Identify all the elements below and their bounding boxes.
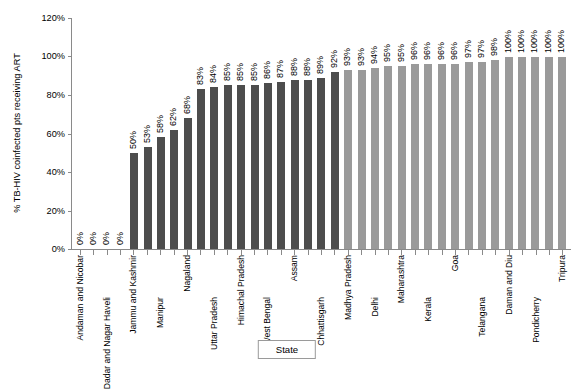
x-axis-label-text: Assam xyxy=(289,255,299,281)
y-axis-tick-mark xyxy=(68,18,72,19)
bar-value-label: 100% xyxy=(503,29,513,52)
bar-value-label: 53% xyxy=(142,125,152,143)
bar[interactable]: 96% xyxy=(411,64,419,249)
bar-value-label: 94% xyxy=(369,46,379,64)
bar[interactable]: 85% xyxy=(224,85,232,249)
bar[interactable]: 100% xyxy=(505,57,513,250)
bar[interactable]: 88% xyxy=(291,80,299,249)
bar-series: 0%0%0%0%50%53%58%62%68%83%84%85%85%85%86… xyxy=(72,18,571,249)
bar-slot: 93% xyxy=(355,18,368,249)
bar-value-label: 95% xyxy=(382,44,392,62)
bar-slot: 93% xyxy=(342,18,355,249)
bar-slot: 96% xyxy=(435,18,448,249)
bar-slot: 0% xyxy=(101,18,114,249)
x-axis-label-tripura: Tripura xyxy=(556,255,569,373)
bar[interactable]: 86% xyxy=(264,83,272,249)
bar-slot: 88% xyxy=(301,18,314,249)
bar-value-label: 100% xyxy=(516,29,526,52)
bar-slot: 62% xyxy=(168,18,181,249)
bar-slot: 95% xyxy=(382,18,395,249)
bar-slot: 0% xyxy=(114,18,127,249)
x-axis-label-chhattisgarh: Chhattisgarh xyxy=(314,255,327,373)
bar[interactable]: 100% xyxy=(558,57,566,250)
bar-value-label: 83% xyxy=(195,67,205,85)
x-axis-label-telangana: Telangana xyxy=(475,255,488,373)
bar[interactable]: 95% xyxy=(384,66,392,249)
x-axis-label-text: Andaman and Nicobar xyxy=(75,255,85,341)
x-axis-label-text: Delhi xyxy=(370,297,380,317)
bar[interactable]: 89% xyxy=(317,78,325,249)
x-axis-label-uttar-pradesh: Uttar Pradesh xyxy=(207,255,220,373)
bar[interactable]: 100% xyxy=(545,57,553,250)
bar-value-label: 85% xyxy=(222,63,232,81)
x-axis-label-blank xyxy=(113,255,126,373)
bar-slot: 84% xyxy=(208,18,221,249)
x-axis-label-text: Kerala xyxy=(423,297,433,322)
x-axis-label-blank xyxy=(462,255,475,373)
bar-value-label: 96% xyxy=(449,42,459,60)
bar-slot: 98% xyxy=(489,18,502,249)
y-axis-tick-label: 120% xyxy=(13,13,72,23)
bar[interactable]: 85% xyxy=(251,85,259,249)
bar[interactable]: 98% xyxy=(491,60,499,249)
x-axis-label-blank xyxy=(194,255,207,373)
x-axis-label-blank xyxy=(381,255,394,373)
bar[interactable]: 83% xyxy=(197,89,205,249)
x-axis-label-manipur: Manipur xyxy=(153,255,166,373)
x-axis-title: State xyxy=(258,340,316,359)
bar-slot: 92% xyxy=(328,18,341,249)
bar-slot: 89% xyxy=(315,18,328,249)
bar[interactable]: 92% xyxy=(331,72,339,249)
x-axis-label-text: West Bengal xyxy=(262,297,272,346)
y-axis-tick-mark xyxy=(68,172,72,173)
bar-slot: 68% xyxy=(181,18,194,249)
bar-slot: 85% xyxy=(221,18,234,249)
x-axis-label-blank xyxy=(435,255,448,373)
plot-area: 0%0%0%0%50%53%58%62%68%83%84%85%85%85%86… xyxy=(71,18,571,250)
bar[interactable]: 95% xyxy=(398,66,406,249)
bar[interactable]: 93% xyxy=(344,70,352,249)
bar-value-label: 96% xyxy=(436,42,446,60)
bar-value-label: 0% xyxy=(102,232,112,245)
bar-value-label: 0% xyxy=(88,232,98,245)
bar-slot: 96% xyxy=(449,18,462,249)
bar-slot: 95% xyxy=(395,18,408,249)
bar[interactable]: 93% xyxy=(358,70,366,249)
bar[interactable]: 97% xyxy=(478,62,486,249)
bar-value-label: 92% xyxy=(329,50,339,68)
x-axis-label-text: Uttar Pradesh xyxy=(209,297,219,350)
x-axis-label-text: Tripura xyxy=(557,255,567,282)
bar-value-label: 98% xyxy=(489,38,499,56)
bar[interactable]: 50% xyxy=(130,153,138,249)
bar[interactable]: 84% xyxy=(210,87,218,249)
bar[interactable]: 68% xyxy=(184,118,192,249)
x-axis-label-dadar-and-nagar-haveli: Dadar and Nagar Haveli xyxy=(100,255,113,373)
bar-slot: 0% xyxy=(87,18,100,249)
bar[interactable]: 62% xyxy=(170,130,178,249)
bar-slot: 96% xyxy=(422,18,435,249)
x-axis-label-nagaland: Nagaland xyxy=(180,255,193,373)
x-axis-label-andaman-and-nicobar: Andaman and Nicobar xyxy=(73,255,86,373)
x-axis-label-blank xyxy=(86,255,99,373)
bar-value-label: 96% xyxy=(409,42,419,60)
bar[interactable]: 87% xyxy=(277,82,285,249)
bar[interactable]: 100% xyxy=(531,57,539,250)
bar[interactable]: 97% xyxy=(465,62,473,249)
bar[interactable]: 58% xyxy=(157,137,165,249)
bar[interactable]: 96% xyxy=(438,64,446,249)
y-axis-tick-label: 60% xyxy=(13,129,72,139)
bar[interactable]: 53% xyxy=(144,147,152,249)
bar[interactable]: 100% xyxy=(518,57,526,250)
x-axis-label-jammu-and-kashmir: Jammu and Kashmir xyxy=(127,255,140,373)
bar-value-label: 0% xyxy=(75,232,85,245)
x-axis-label-text: Maharashtra xyxy=(396,255,406,303)
bar[interactable]: 88% xyxy=(304,80,312,249)
bar[interactable]: 85% xyxy=(237,85,245,249)
x-axis-label-text: Chhattisgarh xyxy=(316,297,326,346)
x-axis-label-text: Pondicherry xyxy=(531,297,541,343)
y-axis-tick-mark xyxy=(68,95,72,96)
bar[interactable]: 96% xyxy=(451,64,459,249)
bar[interactable]: 96% xyxy=(424,64,432,249)
bar[interactable]: 94% xyxy=(371,68,379,249)
